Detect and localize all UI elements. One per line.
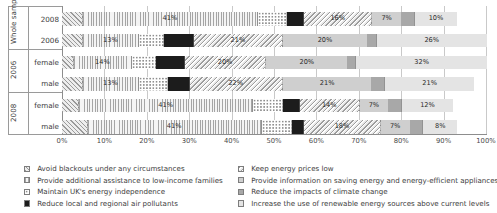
x-tick-label: 30% bbox=[182, 137, 197, 145]
bar-segment: 20% bbox=[185, 56, 267, 70]
bar-segment-label: 41% bbox=[163, 15, 178, 22]
x-tick-label: 50% bbox=[266, 137, 281, 145]
bar-segment: 21% bbox=[283, 77, 372, 91]
legend-label: Avoid blackouts under any circumstances bbox=[37, 165, 184, 172]
bar-segment bbox=[62, 99, 79, 113]
bar-rows: 41%16%7%10%13%21%20%26%14%20%20%32%13%22… bbox=[62, 6, 487, 135]
bar-segment-label: 20% bbox=[318, 37, 333, 44]
y-axis-divider bbox=[8, 134, 62, 135]
bar-segment-label: 14% bbox=[95, 59, 110, 66]
bar-segment: 41% bbox=[88, 120, 262, 134]
x-tick-label: 40% bbox=[224, 137, 239, 145]
legend-swatch-icon bbox=[24, 200, 30, 206]
bar-segment-label: 32% bbox=[414, 59, 429, 66]
legend-column-left: Avoid blackouts under any circumstancesP… bbox=[24, 163, 236, 209]
bar-segment-label: 16% bbox=[330, 15, 345, 22]
y-row-label-2006-male: male bbox=[41, 80, 59, 87]
bar-segment: 26% bbox=[377, 34, 488, 48]
x-tick-label: 80% bbox=[394, 137, 409, 145]
y-row-label-2008-male: male bbox=[41, 123, 59, 130]
legend-item[interactable]: Provide additional assistance to low-inc… bbox=[24, 175, 236, 187]
y-group-label-whole-sample: Whole sample bbox=[10, 12, 26, 44]
legend: Avoid blackouts under any circumstancesP… bbox=[24, 163, 497, 211]
bar-segment bbox=[62, 77, 83, 91]
bar-segment-label: 20% bbox=[218, 59, 233, 66]
y-row-label-2008-female: female bbox=[34, 102, 59, 109]
bar-row-2006-male: 13%22%21%21% bbox=[62, 77, 487, 91]
bar-segment: 14% bbox=[300, 99, 360, 113]
y-row-label-whole-2008: 2008 bbox=[41, 16, 59, 23]
legend-label: Reduce the impacts of climate change bbox=[251, 188, 387, 195]
x-tick-label: 0% bbox=[57, 137, 68, 145]
bar-segment: 8% bbox=[423, 120, 457, 134]
y-row-label-2006-female: female bbox=[34, 59, 59, 66]
legend-item[interactable]: Maintain UK's energy independence bbox=[24, 186, 236, 198]
y-axis: Whole sample 2006 2008 2008 2006 female … bbox=[0, 6, 62, 135]
bar-segment bbox=[411, 120, 424, 134]
stacked-bar-chart: Whole sample 2006 2008 2008 2006 female … bbox=[0, 0, 497, 213]
bar-segment: 32% bbox=[356, 56, 487, 70]
bar-row-whole-2006: 13%21%20%26% bbox=[62, 34, 487, 48]
bar-segment-label: 13% bbox=[103, 37, 118, 44]
x-tick-label: 20% bbox=[139, 137, 154, 145]
bar-segment: 41% bbox=[79, 99, 253, 113]
legend-label: Increase the use of renewable energy sou… bbox=[251, 200, 489, 207]
bar-segment: 16% bbox=[304, 12, 372, 26]
bar-segment-label: 41% bbox=[167, 123, 182, 130]
bar-segment-label: 18% bbox=[335, 123, 350, 130]
legend-item[interactable]: Reduce local and regional air pollutants bbox=[24, 198, 236, 210]
legend-swatch-icon bbox=[238, 166, 244, 172]
bar-segment-label: 14% bbox=[322, 102, 337, 109]
bar-segment: 20% bbox=[283, 34, 368, 48]
legend-item[interactable]: Reduce the impacts of climate change bbox=[238, 186, 497, 198]
bar-segment bbox=[389, 99, 402, 113]
bar-segment-label: 20% bbox=[299, 59, 314, 66]
bar-segment-label: 7% bbox=[390, 123, 400, 130]
bar-segment-label: 8% bbox=[435, 123, 445, 130]
legend-item[interactable]: Increase the use of renewable energy sou… bbox=[238, 198, 497, 210]
legend-label: Maintain UK's energy independence bbox=[37, 188, 165, 195]
bar-segment-label: 7% bbox=[381, 15, 391, 22]
bar-segment: 14% bbox=[74, 56, 131, 70]
legend-item[interactable]: Avoid blackouts under any circumstances bbox=[24, 163, 236, 175]
legend-label: Reduce local and regional air pollutants bbox=[37, 200, 178, 207]
bar-segment bbox=[292, 120, 305, 134]
bar-segment-label: 21% bbox=[231, 37, 246, 44]
bar-segment-label: 26% bbox=[424, 37, 439, 44]
bar-segment bbox=[168, 77, 189, 91]
bar-segment bbox=[283, 99, 300, 113]
bar-segment bbox=[156, 56, 185, 70]
bar-segment: 21% bbox=[194, 34, 283, 48]
x-axis: 0%10%20%30%40%50%60%70%80%90%100% bbox=[62, 137, 487, 149]
legend-swatch-icon bbox=[238, 189, 244, 195]
x-tick-label: 60% bbox=[309, 137, 324, 145]
bar-segment: 13% bbox=[83, 34, 138, 48]
bar-segment bbox=[62, 34, 83, 48]
bar-segment-label: 21% bbox=[422, 80, 437, 87]
legend-item[interactable]: Keep energy prices low bbox=[238, 163, 497, 175]
bar-segment bbox=[62, 12, 83, 26]
bar-segment-label: 22% bbox=[228, 80, 243, 87]
legend-swatch-icon bbox=[24, 189, 30, 195]
x-tick-label: 70% bbox=[351, 137, 366, 145]
bar-row-2006-female: 14%20%20%32% bbox=[62, 56, 487, 70]
bar-segment bbox=[139, 77, 169, 91]
bar-segment bbox=[132, 56, 157, 70]
bar-segment bbox=[164, 34, 194, 48]
bar-segment: 22% bbox=[190, 77, 284, 91]
legend-column-right: Keep energy prices lowProvide informatio… bbox=[238, 163, 497, 209]
bar-segment-label: 13% bbox=[103, 80, 118, 87]
legend-label: Provide additional assistance to low-inc… bbox=[37, 177, 223, 184]
bar-segment-label: 10% bbox=[429, 15, 444, 22]
bar-segment: 10% bbox=[415, 12, 458, 26]
y-axis-divider bbox=[8, 92, 62, 93]
plot-area: 41%16%7%10%13%21%20%26%14%20%20%32%13%22… bbox=[62, 6, 487, 135]
legend-swatch-icon bbox=[238, 177, 244, 183]
bar-segment-label: 12% bbox=[420, 102, 435, 109]
legend-item[interactable]: Provide information on saving energy and… bbox=[238, 175, 497, 187]
bar-segment: 7% bbox=[360, 99, 390, 113]
bar-segment bbox=[258, 12, 288, 26]
bar-segment: 21% bbox=[385, 77, 474, 91]
bar-segment bbox=[253, 99, 283, 113]
y-axis-inner-line bbox=[28, 6, 29, 135]
